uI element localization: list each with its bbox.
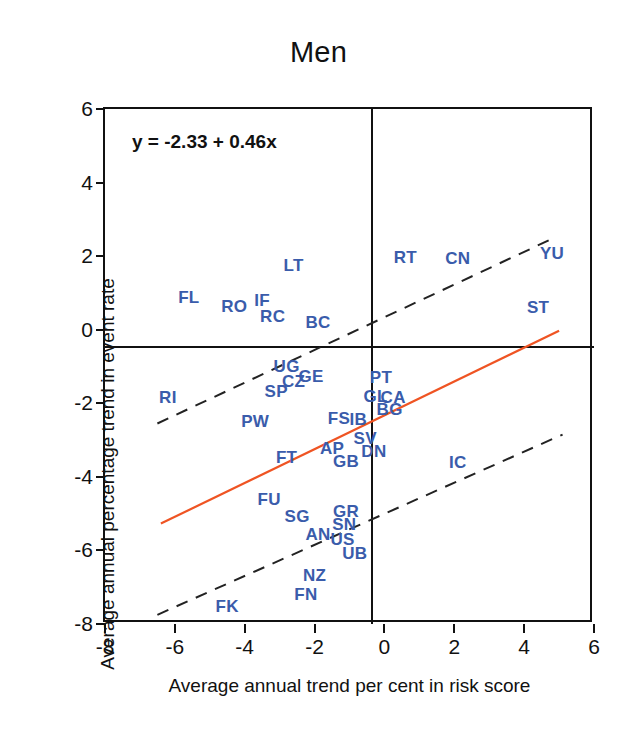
plot-area: y = -2.33 + 0.46x -8-6-4-20246-8-6-4-202…: [103, 107, 592, 622]
x-axis-tick: [244, 624, 246, 633]
x-axis-tick-label: 2: [448, 635, 460, 659]
data-point-label: BG: [377, 400, 403, 420]
x-axis-tick: [383, 624, 385, 633]
data-point-label: DN: [361, 442, 386, 462]
y-axis-tick-label: -6: [74, 538, 93, 562]
y-axis-tick-label: 0: [81, 317, 93, 341]
data-point-label: YU: [540, 244, 564, 264]
data-point-label: RC: [260, 307, 285, 327]
y-axis-tick-label: -2: [74, 391, 93, 415]
data-point-label: AN: [305, 525, 330, 545]
data-point-label: NZ: [303, 566, 326, 586]
x-axis-tick: [523, 624, 525, 633]
data-point-label: LT: [284, 256, 304, 276]
data-point-label: IC: [449, 453, 467, 473]
zero-line-horizontal: [105, 346, 594, 348]
data-point-label: IB: [349, 410, 367, 430]
x-axis-title: Average annual trend per cent in risk sc…: [105, 675, 594, 697]
data-point-label: FS: [328, 409, 350, 429]
data-point-label: ST: [527, 298, 549, 318]
x-axis-tick-label: -2: [305, 635, 324, 659]
scatter-plot-figure: Men y = -2.33 + 0.46x -8-6-4-20246-8-6-4…: [0, 0, 637, 729]
confidence-band-lower: [157, 435, 562, 615]
data-point-label: CN: [445, 249, 470, 269]
y-axis-tick-label: 2: [81, 244, 93, 268]
y-axis-tick: [96, 108, 105, 110]
data-point-label: SP: [265, 382, 288, 402]
zero-line-vertical: [371, 109, 373, 624]
x-axis-tick: [174, 624, 176, 633]
y-axis-tick: [96, 255, 105, 257]
y-axis-tick-label: -4: [74, 464, 93, 488]
y-axis-title: Average annual percentage trend in event…: [97, 278, 119, 670]
x-axis-tick: [453, 624, 455, 633]
data-point-label: FU: [258, 490, 281, 510]
x-axis-tick-label: -4: [235, 635, 254, 659]
x-axis-tick-label: -6: [166, 635, 185, 659]
data-point-label: PT: [370, 368, 392, 388]
x-axis-tick: [314, 624, 316, 633]
data-point-label: GB: [333, 452, 359, 472]
data-point-label: FL: [178, 288, 199, 308]
data-point-label: RT: [394, 248, 417, 268]
data-point-label: FK: [216, 597, 239, 617]
data-point-label: GE: [298, 367, 323, 387]
y-axis-tick-label: 6: [81, 97, 93, 121]
data-point-label: FN: [294, 585, 317, 605]
data-point-label: FT: [276, 448, 297, 468]
data-point-label: RI: [159, 388, 177, 408]
data-point-label: BC: [305, 313, 330, 333]
x-axis-tick-label: 6: [588, 635, 600, 659]
x-axis-tick: [593, 624, 595, 633]
x-axis-tick-label: 0: [379, 635, 391, 659]
y-axis-tick-label: -8: [74, 612, 93, 636]
regression-equation-annotation: y = -2.33 + 0.46x: [132, 131, 277, 153]
y-axis-tick-label: 4: [81, 170, 93, 194]
data-point-label: RO: [221, 297, 247, 317]
page-title: Men: [0, 36, 637, 69]
y-axis-tick: [96, 182, 105, 184]
x-axis-tick-label: 4: [518, 635, 530, 659]
data-point-label: UB: [342, 544, 367, 564]
confidence-band-upper: [157, 240, 550, 424]
data-point-label: PW: [241, 412, 269, 432]
